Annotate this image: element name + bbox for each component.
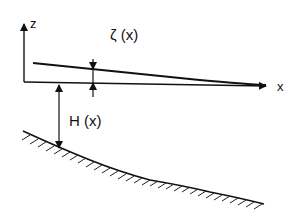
free-surface-curve	[33, 63, 266, 85]
x-axis-label: x	[277, 79, 284, 94]
z-axis-label: z	[30, 16, 37, 31]
surface-elevation-label: ζ (x)	[110, 26, 138, 43]
depth-label: H (x)	[69, 112, 102, 129]
diagram-canvas: z x ζ (x) H (x)	[0, 0, 299, 222]
